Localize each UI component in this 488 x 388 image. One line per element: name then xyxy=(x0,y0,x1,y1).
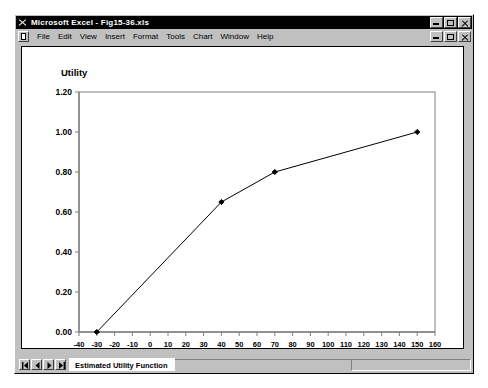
y-tick-label: 0.40 xyxy=(55,247,72,257)
workbook-client-area: 0.000.200.400.600.801.001.20-40-30-20-10… xyxy=(16,43,472,373)
excel-x-icon xyxy=(17,17,28,28)
y-axis-title: Utility xyxy=(61,67,88,78)
window-controls xyxy=(430,17,471,28)
x-tick-label: 80 xyxy=(288,340,296,348)
y-tick-label: 0.60 xyxy=(55,207,72,217)
x-tick-label: -20 xyxy=(109,340,120,348)
restore-button[interactable] xyxy=(444,17,457,28)
menu-item-window[interactable]: Window xyxy=(217,30,253,43)
x-tick-label: 50 xyxy=(235,340,243,348)
close-button[interactable] xyxy=(458,17,471,28)
document-icon[interactable] xyxy=(18,31,29,42)
chart-object[interactable]: 0.000.200.400.600.801.001.20-40-30-20-10… xyxy=(21,46,464,349)
excel-application-window: Microsoft Excel - Fig15-36.xls File Edit… xyxy=(14,14,474,374)
prev-sheet-icon[interactable] xyxy=(31,359,42,370)
document-minimize-button[interactable] xyxy=(430,31,443,42)
x-tick-label: 40 xyxy=(217,340,225,348)
menu-item-insert[interactable]: Insert xyxy=(101,30,129,43)
x-tick-label: 130 xyxy=(375,340,388,348)
menu-item-file[interactable]: File xyxy=(33,30,54,43)
y-tick-label: 0.00 xyxy=(55,327,72,337)
window-title: Microsoft Excel - Fig15-36.xls xyxy=(31,16,149,29)
menu-item-format[interactable]: Format xyxy=(129,30,162,43)
menu-bar: File Edit View Insert Format Tools Chart… xyxy=(16,30,472,43)
last-sheet-icon[interactable] xyxy=(55,359,66,370)
document-restore-button[interactable] xyxy=(444,31,457,42)
menu-item-edit[interactable]: Edit xyxy=(54,30,76,43)
y-tick-label: 0.20 xyxy=(55,287,72,297)
menu-item-view[interactable]: View xyxy=(76,30,101,43)
x-tick-label: 120 xyxy=(358,340,371,348)
sheet-nav-buttons xyxy=(19,359,66,370)
x-tick-label: 70 xyxy=(271,340,279,348)
y-tick-label: 1.20 xyxy=(55,87,72,97)
x-tick-label: 90 xyxy=(306,340,314,348)
x-tick-label: -10 xyxy=(127,340,138,348)
x-tick-label: 100 xyxy=(322,340,335,348)
menu-item-tools[interactable]: Tools xyxy=(162,30,189,43)
document-close-button[interactable] xyxy=(458,31,471,42)
tab-bar-filler xyxy=(175,359,351,371)
first-sheet-icon[interactable] xyxy=(19,359,30,370)
x-tick-label: 150 xyxy=(411,340,424,348)
horizontal-scrollbar[interactable] xyxy=(351,359,471,371)
y-tick-label: 0.80 xyxy=(55,167,72,177)
minimize-button[interactable] xyxy=(430,17,443,28)
x-tick-label: 110 xyxy=(340,340,352,348)
x-tick-label: 160 xyxy=(429,340,442,348)
sheet-tab-bar: Estimated Utility Function xyxy=(17,357,473,372)
x-tick-label: -30 xyxy=(91,340,102,348)
next-sheet-icon[interactable] xyxy=(43,359,54,370)
x-tick-label: 30 xyxy=(199,340,207,348)
document-window-controls xyxy=(430,31,471,42)
menu-item-help[interactable]: Help xyxy=(253,30,277,43)
menu-item-chart[interactable]: Chart xyxy=(189,30,217,43)
sheet-tab-estimated-utility-function[interactable]: Estimated Utility Function xyxy=(69,358,175,371)
plot-area xyxy=(79,92,435,332)
x-tick-label: 10 xyxy=(164,340,172,348)
x-tick-label: 140 xyxy=(393,340,406,348)
title-bar: Microsoft Excel - Fig15-36.xls xyxy=(16,16,472,29)
y-tick-label: 1.00 xyxy=(55,127,72,137)
x-tick-label: 0 xyxy=(148,340,152,348)
utility-line-chart: 0.000.200.400.600.801.001.20-40-30-20-10… xyxy=(22,47,463,348)
x-tick-label: -40 xyxy=(74,340,85,348)
x-tick-label: 20 xyxy=(182,340,190,348)
x-tick-label: 60 xyxy=(253,340,261,348)
